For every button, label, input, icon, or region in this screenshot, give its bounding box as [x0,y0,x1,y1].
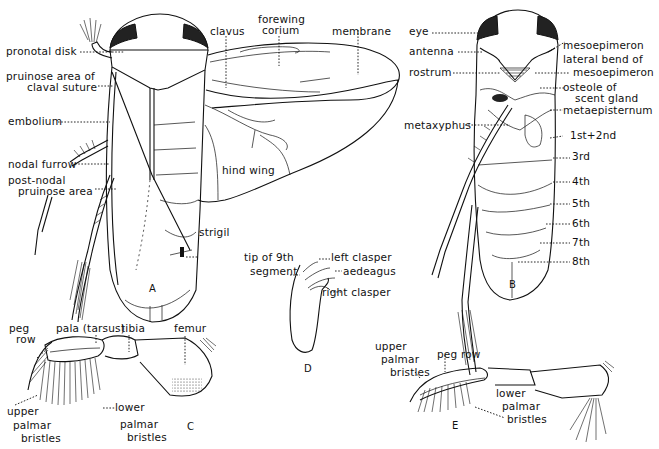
label-segment-4: 4th [572,176,590,187]
label-c-upper-1: upper [7,406,39,417]
label-rostrum: rostrum [409,67,452,78]
label-lateral-bend-1: lateral bend of [563,54,643,65]
anatomy-figure [0,0,659,449]
label-segment-7: 7th [572,237,590,248]
label-segment-5: 5th [572,198,590,209]
label-osteole-2: scent gland [575,93,638,104]
eye-icon [183,24,208,48]
label-nodal-furrow: nodal furrow [8,159,76,170]
label-metaxyphus: metaxyphus [404,120,471,131]
label-segment-8: 8th [572,256,590,267]
label-segment-3: 3rd [572,151,590,162]
label-pruinose-area-2: claval suture [27,82,97,93]
panel-b-drawing [432,10,570,375]
label-eye: eye [409,26,429,37]
label-forewing-2: corium [262,25,300,36]
label-e-peg-row: peg row [437,349,481,360]
label-pronotal-disk: pronotal disk [6,46,77,57]
label-c-tibia: tibia [121,323,145,334]
label-d-tip-1: tip of 9th [244,252,294,263]
label-d-left-clasper: left clasper [331,252,392,263]
label-segment-6: 6th [572,218,590,229]
label-segment-1-2: 1st+2nd [570,130,616,141]
label-c-lower-2: palmar [120,419,158,430]
label-post-nodal-2: pruinose area [18,186,93,197]
eye-icon [537,16,558,40]
label-hind-wing: hind wing [222,165,275,176]
label-c-lower-3: bristles [127,432,167,443]
label-lateral-bend-2: mesoepimeron [573,67,654,78]
panel-letter-b: B [509,279,516,290]
eye-icon [477,16,498,40]
label-clavus: clavus [210,26,245,37]
label-d-right-clasper: right clasper [322,287,391,298]
label-c-pala: pala (tarsus) [56,323,125,334]
label-e-upper-1: upper [375,341,407,352]
label-mesoepimeron: mesoepimeron [563,40,644,51]
label-d-tip-2: segment [250,266,297,277]
label-e-upper-3: bristles [390,367,430,378]
label-antenna: antenna [409,46,454,57]
panel-letter-c: C [187,421,194,432]
eye-icon [110,24,137,48]
label-c-upper-3: bristles [21,433,61,444]
label-c-femur: femur [174,323,206,334]
panel-letter-a: A [149,283,156,294]
label-e-upper-2: palmar [381,354,419,365]
label-membrane: membrane [332,26,391,37]
label-strigil: strigil [199,227,230,238]
label-c-peg-2: row [16,334,36,345]
panel-d-drawing [290,259,342,352]
panel-c-drawing [15,335,216,408]
panel-letter-e: E [452,420,458,431]
label-metaepisternum: metaepisternum [563,105,653,116]
label-embolium: embolium [8,116,62,127]
label-c-lower-1: lower [115,402,145,413]
label-e-lower-2: palmar [502,401,540,412]
label-e-lower-1: lower [496,388,526,399]
label-e-lower-3: bristles [507,414,547,425]
panel-letter-d: D [304,363,312,374]
label-c-upper-2: palmar [13,420,51,431]
label-d-aedeagus: aedeagus [343,266,396,277]
